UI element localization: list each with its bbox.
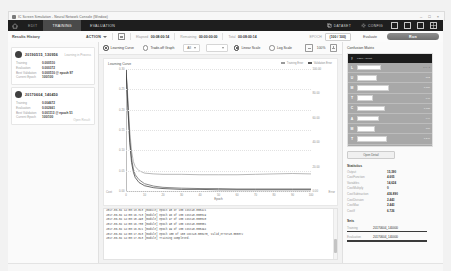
log-scroll-thumb[interactable] [334, 239, 336, 253]
panel-bottom-icon[interactable] [404, 22, 411, 29]
log-scrollbar[interactable] [333, 209, 337, 259]
result-card-header: 20170604_140450 [15, 91, 91, 98]
sets-list: Training20170604_140000Evaluation2017060… [347, 226, 439, 242]
run-button[interactable]: Run [387, 33, 439, 40]
matrix-note: Count [423, 66, 430, 69]
panel-right-icon[interactable] [417, 22, 424, 29]
x-tick-label: 60 [235, 193, 238, 197]
grid-line [126, 150, 311, 151]
matrix-row: U892 [348, 73, 432, 83]
zoom-out-icon[interactable] [305, 44, 313, 52]
set-value: 20170604_140000 [373, 226, 398, 230]
matrix-row-value: 640 [426, 97, 432, 100]
statistic-row: CostFunction4.605 [347, 175, 439, 179]
y-tick-label: 0.00 [119, 189, 124, 193]
matrix-row: C1,188 [348, 104, 432, 114]
statistic-row: CostDivision2.443 [347, 198, 439, 202]
matrix-row-bar [357, 116, 379, 122]
zoom-level: 100% [317, 46, 326, 50]
result-card[interactable]: 20170604_140450 Training 0.004672 Evalua… [11, 87, 95, 125]
matrix-row: M1,310 [348, 83, 432, 93]
app-window: IC Screen Simulation - Neural Network Co… [0, 0, 451, 271]
set-line: Evaluation20170604_140000 [347, 235, 439, 239]
chart-controls: Learning Curve Trade-off Graph All Linea… [99, 42, 342, 55]
matrix-col2-label: Label / Count [356, 57, 372, 60]
dataset-label: DATASET [334, 24, 351, 28]
grid-line [126, 69, 311, 70]
matrix-row-value: 760 [426, 127, 432, 130]
config-button[interactable]: CONFIG [356, 20, 388, 31]
set-bar [347, 231, 427, 233]
radio-log-scale[interactable]: Log Scale [269, 45, 292, 51]
chevron-down-icon [222, 47, 224, 49]
nav-tab-training[interactable]: TRAINING [43, 20, 81, 31]
open-detail-button[interactable]: Open Detail [347, 151, 395, 159]
grid-line [126, 89, 311, 90]
grid-line [126, 130, 311, 131]
maximize-button[interactable]: □ [428, 15, 430, 19]
set-row[interactable]: Training20170604_140000 [347, 226, 439, 233]
toolbar-divider [112, 33, 113, 40]
statistic-value: 436.890 [387, 192, 398, 196]
set-row[interactable]: Evaluation20170604_140000 [347, 235, 439, 242]
minimize-button[interactable]: – [420, 15, 422, 19]
sets-title: Sets [347, 219, 439, 223]
set-line: Training20170604_140000 [347, 226, 439, 230]
training-log[interactable]: 2017-06-04 14:00:13.013 [module] epoch 9… [103, 208, 338, 260]
matrix-row: T640 [348, 94, 432, 104]
log-lines: 2017-06-04 14:00:13.013 [module] epoch 9… [104, 209, 337, 242]
y-tick-label: 0.05 [119, 169, 124, 173]
panel-grid-icon[interactable] [430, 22, 437, 29]
secondary-select[interactable] [206, 44, 228, 52]
window-title: IC Screen Simulation - Neural Network Co… [18, 15, 108, 19]
home-icon[interactable] [8, 23, 22, 29]
matrix-row-value: 944 [426, 117, 432, 120]
action-dropdown[interactable]: ACTION [86, 35, 107, 39]
save-icon[interactable] [118, 33, 125, 40]
statistic-row: Output15,390 [347, 170, 439, 174]
result-card[interactable]: 20190515_130956 Learning in Process Trai… [11, 47, 95, 85]
series-select-value: All [187, 46, 191, 50]
set-bar [347, 240, 427, 242]
y-tick-label-right: 100.00 [313, 67, 322, 71]
matrix-row-value: 1,188 [424, 107, 432, 110]
statistic-key: CostSubtraction [347, 192, 387, 196]
radio-label: Log Scale [277, 46, 292, 50]
chevron-down-icon [103, 36, 107, 38]
elapsed-key: Elapsed [136, 35, 148, 39]
confusion-matrix[interactable]: y Label / Count L1,024U892M1,310T640C1,1… [347, 53, 433, 147]
nav-tab-evaluation[interactable]: EVALUATION [81, 20, 124, 31]
matrix-row-bar [357, 126, 375, 132]
legend-label: Validation Error [314, 62, 332, 65]
main-navbar: EDIT TRAINING EVALUATION DATASET CONFIG [8, 20, 443, 31]
toolbar-divider-4 [222, 33, 223, 40]
detail-key: Current Epoch [16, 75, 42, 80]
matrix-row-label: L [348, 66, 356, 70]
statistic-row: CostIf6.726 [347, 209, 439, 213]
matrix-row-label: M [348, 86, 356, 90]
legend-item: Validation Error [308, 62, 332, 65]
matrix-row-label: T [348, 137, 356, 141]
close-button[interactable]: × [437, 15, 439, 19]
grid-line [126, 171, 311, 172]
evaluate-label[interactable]: Evaluate [363, 35, 377, 39]
radio-tradeoff-graph[interactable]: Trade-off Graph [143, 45, 175, 51]
toolbar-right: EPOCH (100 / 100) Evaluate Run [310, 33, 443, 41]
window-controls: – □ × [420, 15, 444, 19]
matrix-row-value: 892 [426, 76, 432, 79]
nav-tab-edit[interactable]: EDIT [22, 20, 43, 31]
learning-curve-chart[interactable]: Learning Curve Training Error Validation… [103, 58, 338, 206]
results-history-sidebar[interactable]: 20190515_130956 Learning in Process Trai… [8, 42, 99, 266]
main-body: 20190515_130956 Learning in Process Trai… [8, 42, 443, 263]
dataset-button[interactable]: DATASET [322, 20, 356, 31]
status-bar [8, 263, 443, 271]
chevron-down-icon [194, 47, 196, 49]
open-result-link[interactable]: Open Result [73, 118, 90, 122]
radio-linear-scale[interactable]: Linear Scale [234, 45, 260, 51]
panel-left-icon[interactable] [391, 22, 398, 29]
series-select[interactable]: All [183, 44, 200, 52]
matrix-row-value: 1,246 [424, 137, 432, 140]
statistic-value: 2.443 [387, 203, 395, 207]
zoom-in-icon[interactable] [330, 44, 338, 52]
radio-learning-curve[interactable]: Learning Curve [103, 45, 134, 51]
